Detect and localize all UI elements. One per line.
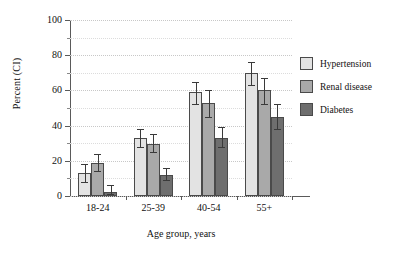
error-bar-cap-upper [274,104,281,105]
y-axis-tick [65,90,70,91]
gridline-minor [70,73,292,74]
error-bar-cap-lower [150,152,157,153]
gridline-major [70,55,292,56]
y-axis-tick [65,196,70,197]
error-bar [153,134,154,152]
x-axis-tick [237,196,238,200]
legend-item: Diabetes [300,100,372,119]
gridline-major [70,20,292,21]
error-bar-cap-lower [261,104,268,105]
y-axis-title: Percent (CI) [11,24,22,144]
error-bar-cap-lower [274,129,281,130]
y-axis-tick [65,20,70,21]
legend-item: Renal disease [300,77,372,96]
error-bar-cap-lower [94,171,101,172]
y-axis-tick [65,126,70,127]
y-axis-tick-labels: 020406080100 [26,0,62,253]
error-bar-cap-lower [248,85,255,86]
error-bar-cap-upper [150,134,157,135]
bar [189,92,202,196]
y-axis-minor-tick [67,143,70,144]
y-axis-tick-label: 20 [32,156,62,166]
bar [245,73,258,196]
y-axis-minor-tick [67,73,70,74]
legend-item-label: Diabetes [320,105,353,115]
chart-figure: Percent (CI) 020406080100 18-2425-3940-5… [0,0,399,253]
error-bar-cap-upper [81,164,88,165]
bar [258,90,271,196]
y-axis-minor-tick [67,38,70,39]
error-bar-cap-upper [248,62,255,63]
error-bar [264,78,265,104]
legend-swatch-icon [300,57,313,70]
error-bar-cap-lower [137,147,144,148]
y-axis-tick [65,161,70,162]
legend-item-label: Hypertension [320,59,371,69]
legend-swatch-icon [300,80,313,93]
x-axis-category-label: 25-39 [126,202,182,213]
y-axis-tick-label: 80 [32,50,62,60]
error-bar-cap-upper [94,154,101,155]
error-bar [98,154,99,172]
x-axis-tick [181,196,182,200]
legend-item-label: Renal disease [320,82,372,92]
x-axis-category-label: 55+ [237,202,293,213]
error-bar-cap-upper [163,168,170,169]
x-axis-category-label: 40-54 [181,202,237,213]
y-axis-tick-label: 100 [32,15,62,25]
gridline-minor [70,38,292,39]
error-bar [277,104,278,129]
error-bar-cap-upper [205,90,212,91]
x-axis-tick [292,196,293,200]
error-bar [85,164,86,182]
error-bar [251,62,252,85]
error-bar-cap-lower [81,182,88,183]
error-bar [222,127,223,146]
legend-swatch-icon [300,103,313,116]
error-bar-cap-lower [192,104,199,105]
x-axis-tick [126,196,127,200]
y-axis-tick-label: 0 [32,191,62,201]
error-bar [140,129,141,147]
error-bar-cap-lower [205,117,212,118]
error-bar-cap-lower [107,194,114,195]
plot-area [70,20,292,196]
chart-legend: HypertensionRenal diseaseDiabetes [300,54,372,123]
error-bar-cap-upper [107,185,114,186]
y-axis-tick [65,55,70,56]
y-axis-tick-label: 60 [32,85,62,95]
error-bar-cap-upper [192,82,199,83]
error-bar [196,82,197,105]
y-axis-minor-tick [67,108,70,109]
error-bar-cap-lower [218,147,225,148]
y-axis-minor-tick [67,178,70,179]
error-bar [111,185,112,194]
error-bar-cap-upper [137,129,144,130]
x-axis-category-label: 18-24 [70,202,126,213]
x-axis-title: Age group, years [70,228,292,239]
error-bar [166,168,167,180]
legend-item: Hypertension [300,54,372,73]
error-bar-cap-upper [261,78,268,79]
error-bar [209,90,210,116]
error-bar-cap-lower [163,180,170,181]
y-axis-tick-label: 40 [32,121,62,131]
error-bar-cap-upper [218,127,225,128]
